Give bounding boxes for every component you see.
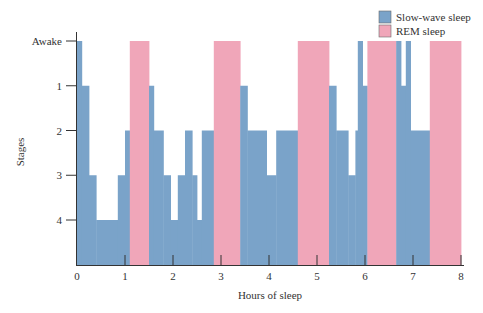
slow-wave-segment <box>154 131 164 266</box>
slow-wave-segment <box>178 175 186 265</box>
x-tick-label: 3 <box>218 270 224 282</box>
slow-wave-segment <box>358 41 363 265</box>
legend-label-slow-wave: Slow-wave sleep <box>396 11 471 23</box>
sleep-stages-chart: Awake1234 012345678 Hours of sleep Stage… <box>0 0 483 313</box>
x-tick-label: 5 <box>314 270 320 282</box>
y-tick-label: 1 <box>57 80 63 92</box>
slow-wave-segment <box>247 131 267 266</box>
rem-segment <box>298 41 330 265</box>
y-ticks: Awake1234 <box>32 35 76 226</box>
rem-segment <box>430 41 462 265</box>
slow-wave-segment <box>329 86 337 265</box>
slow-wave-segment <box>348 175 356 265</box>
slow-wave-segment <box>185 131 193 266</box>
slow-wave-segment <box>363 86 368 265</box>
x-tick-label: 7 <box>410 270 416 282</box>
x-tick-label: 1 <box>122 270 128 282</box>
rem-segment <box>367 41 396 265</box>
y-tick-label: 3 <box>57 169 63 181</box>
legend: Slow-wave sleep REM sleep <box>379 11 471 37</box>
legend-label-rem: REM sleep <box>396 25 446 37</box>
rem-segment <box>214 41 241 265</box>
slow-wave-segment <box>396 41 401 265</box>
legend-swatch-rem <box>379 25 391 37</box>
slow-wave-segment <box>406 41 411 265</box>
slow-wave-segment <box>401 86 406 265</box>
slow-wave-segment <box>276 131 298 266</box>
slow-wave-segment <box>149 86 154 265</box>
slow-wave-segment <box>411 131 431 266</box>
y-axis-title: Stages <box>14 138 26 167</box>
slow-wave-segment <box>171 220 179 265</box>
slow-wave-segment <box>355 131 358 266</box>
x-tick-label: 4 <box>266 270 272 282</box>
sleep-segments <box>77 41 461 265</box>
slow-wave-segment <box>240 86 248 265</box>
legend-swatch-slow-wave <box>379 11 391 23</box>
x-tick-label: 8 <box>458 270 464 282</box>
slow-wave-segment <box>163 175 171 265</box>
x-tick-label: 2 <box>170 270 176 282</box>
rem-segment <box>130 41 150 265</box>
y-tick-label: 4 <box>57 214 63 226</box>
slow-wave-segment <box>192 175 197 265</box>
slow-wave-segment <box>77 41 82 265</box>
slow-wave-segment <box>336 131 348 266</box>
y-tick-label: Awake <box>32 35 62 47</box>
slow-wave-segment <box>89 175 97 265</box>
slow-wave-segment <box>267 175 277 265</box>
slow-wave-segment <box>118 175 126 265</box>
slow-wave-segment <box>125 131 130 266</box>
x-tick-label: 0 <box>74 270 80 282</box>
slow-wave-segment <box>96 220 118 265</box>
x-axis-title: Hours of sleep <box>238 289 303 301</box>
x-tick-label: 6 <box>362 270 368 282</box>
slow-wave-segment <box>202 131 214 266</box>
slow-wave-segment <box>82 86 90 265</box>
y-tick-label: 2 <box>57 125 63 137</box>
slow-wave-segment <box>197 220 202 265</box>
